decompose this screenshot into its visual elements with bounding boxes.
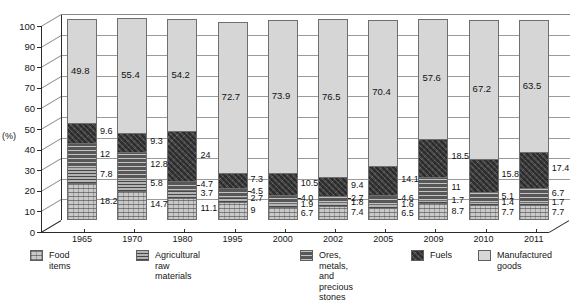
value-label-agricultural-raw-materials-2009: 1.7 (451, 196, 464, 205)
y-tick-label-100: 100 (5, 22, 35, 31)
agricultural-raw-materials-swatch (136, 250, 149, 261)
bar-2009 (418, 19, 448, 220)
value-label-ores-metals-2010: 5.1 (502, 192, 515, 201)
food-items-swatch (30, 250, 43, 261)
leader-line-ores-metals-2000 (298, 198, 301, 199)
segment-ores-metals-1965 (68, 143, 96, 168)
y-tick-label-70: 70 (5, 83, 35, 92)
value-label-ores-metals-1970: 12.8 (150, 160, 168, 169)
value-label-fuels-1965: 9.6 (100, 127, 113, 136)
x-tick-mark-2000 (285, 229, 286, 233)
segment-food-items-2000 (269, 207, 297, 220)
segment-fuels-2000 (269, 173, 297, 195)
value-label-agricultural-raw-materials-2011: 1.7 (552, 198, 565, 207)
leader-line-ores-metals-2002 (348, 198, 351, 199)
depth-line-70 (41, 76, 62, 89)
y-axis-line-back (61, 14, 62, 220)
x-tick-label-2010: 2010 (462, 235, 506, 244)
x-tick-label-2000: 2000 (261, 235, 305, 244)
value-label-manufactured-goods-1965: 49.8 (71, 66, 90, 76)
depth-line-30 (41, 158, 62, 171)
y-tick-label-10: 10 (5, 207, 35, 216)
x-tick-label-1970: 1970 (110, 235, 154, 244)
value-label-food-items-2005: 6.5 (401, 209, 414, 218)
x-axis-line (41, 232, 549, 233)
value-label-food-items-2009: 8.7 (451, 207, 464, 216)
segment-ores-metals-1995 (219, 188, 247, 197)
bar-2010 (469, 20, 499, 220)
fuels-swatch (411, 250, 424, 261)
y-tick-label-40: 40 (5, 145, 35, 154)
segment-agricultural-raw-materials-1965 (68, 167, 96, 183)
bar-1980 (167, 19, 197, 220)
segment-food-items-2002 (319, 206, 347, 220)
depth-line-40 (41, 138, 62, 151)
value-label-ores-metals-2009: 11 (451, 183, 460, 192)
value-label-fuels-1980: 24 (200, 151, 210, 160)
x-tick-mark-2009 (435, 229, 436, 233)
value-label-manufactured-goods-2010: 67.2 (473, 84, 492, 94)
segment-ores-metals-1970 (118, 152, 146, 178)
x-tick-label-1995: 1995 (211, 235, 255, 244)
depth-line-50 (41, 117, 62, 130)
segment-agricultural-raw-materials-1980 (168, 190, 196, 198)
x-tick-label-2009: 2009 (411, 235, 455, 244)
segment-food-items-1965 (68, 183, 96, 220)
y-tick-label-0: 0 (5, 228, 35, 237)
segment-food-items-1995 (219, 202, 247, 220)
value-label-ores-metals-1965: 12 (100, 150, 110, 159)
x-tick-mark-1965 (84, 229, 85, 233)
legend-label-ores-metals: Ores, metals, and precious stones (319, 250, 353, 303)
value-label-fuels-2009: 18.5 (451, 152, 469, 161)
value-label-agricultural-raw-materials-1965: 7.8 (100, 170, 113, 179)
value-label-fuels-1970: 9.3 (150, 137, 163, 146)
x-axis-right-depth-line (549, 220, 569, 233)
bar-2000 (268, 20, 298, 220)
y-tick-label-80: 80 (5, 63, 35, 72)
x-tick-label-1980: 1980 (160, 235, 204, 244)
legend-label-manufactured-goods: Manufactured goods (497, 250, 552, 271)
legend-label-food-items: Food items (49, 250, 71, 271)
value-label-food-items-1970: 14.7 (150, 200, 168, 209)
leader-line-ores-metals-2005 (398, 199, 401, 200)
value-label-food-items-2010: 7.7 (502, 208, 515, 217)
value-label-manufactured-goods-2011: 63.5 (523, 81, 542, 91)
value-label-fuels-2011: 17.4 (552, 164, 570, 173)
x-tick-label-2011: 2011 (512, 235, 556, 244)
plot-top-edge (61, 14, 570, 15)
segment-ores-metals-1980 (168, 181, 196, 191)
bar-1965 (67, 19, 97, 220)
depth-line-10 (41, 199, 62, 212)
value-label-food-items-2011: 7.7 (552, 208, 565, 217)
value-label-manufactured-goods-1980: 54.2 (171, 70, 190, 80)
value-label-food-items-2002: 7.4 (351, 208, 364, 217)
depth-line-100 (41, 14, 62, 27)
value-label-ores-metals-2005: 4.6 (401, 194, 414, 203)
x-tick-mark-1995 (235, 229, 236, 233)
y-tick-label-20: 20 (5, 186, 35, 195)
segment-food-items-1970 (118, 191, 146, 220)
value-label-fuels-2010: 15.8 (502, 170, 520, 179)
depth-line-80 (41, 55, 62, 68)
bar-2011 (519, 20, 549, 220)
segment-fuels-1995 (219, 173, 247, 188)
bar-2005 (368, 20, 398, 220)
value-label-manufactured-goods-2009: 57.6 (422, 73, 441, 83)
segment-fuels-2011 (520, 152, 548, 188)
depth-line-90 (41, 35, 62, 48)
value-label-ores-metals-1995: 4.5 (251, 187, 264, 196)
chart-legend: Food items Agricultural raw materials Or… (0, 247, 587, 277)
y-tick-label-60: 60 (5, 104, 35, 113)
segment-ores-metals-2011 (520, 188, 548, 202)
bar-1995 (218, 22, 248, 220)
value-label-food-items-1965: 18.2 (100, 197, 118, 206)
value-label-manufactured-goods-1970: 55.4 (121, 70, 140, 80)
segment-food-items-2011 (520, 205, 548, 220)
segment-fuels-2010 (470, 159, 498, 192)
segment-fuels-1965 (68, 123, 96, 143)
manufactured-goods-swatch (478, 250, 491, 261)
value-label-agricultural-raw-materials-1970: 5.8 (150, 179, 163, 188)
value-label-manufactured-goods-2005: 70.4 (372, 87, 391, 97)
value-label-ores-metals-2002: 2.7 (351, 194, 364, 203)
